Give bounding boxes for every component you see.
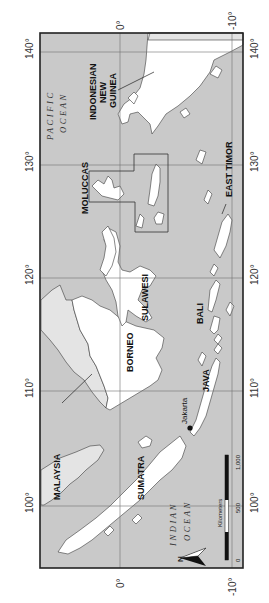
longitude-labels-right: 140° 130° 120° 110° 100°	[249, 38, 260, 513]
tick-140-left: 140°	[24, 38, 35, 59]
label-borneo: BORNEO	[125, 332, 135, 372]
tick-130-left: 130°	[24, 151, 35, 172]
tick-lat-0-top: 0°	[115, 20, 126, 30]
scale-unit: Kilometers	[217, 499, 223, 527]
label-bali: BALI	[195, 303, 205, 324]
tick-120-right: 120°	[249, 264, 260, 285]
label-moluccas: MOLUCCAS	[80, 162, 90, 214]
label-new-guinea-3: GUINEA	[108, 72, 118, 108]
tick-140-right: 140°	[249, 38, 260, 59]
land-papua-new-guinea	[148, 33, 243, 40]
tick-100-right: 100°	[249, 492, 260, 513]
indonesia-map: 140° 130° 120° 110° 100° 140° 130° 120° …	[0, 0, 269, 603]
tick-lat-10-bottom: -10°	[227, 578, 238, 596]
label-new-guinea-2: NEW	[98, 81, 108, 103]
tick-lat-0-bottom: 0°	[115, 578, 126, 588]
label-java: JAVA	[201, 369, 211, 392]
longitude-labels-left: 140° 130° 120° 110° 100°	[24, 38, 35, 513]
label-east-timor: EAST TIMOR	[224, 141, 234, 197]
label-pacific-2: OCEAN	[58, 92, 68, 133]
tick-130-right: 130°	[249, 151, 260, 172]
label-sulawesi: SULAWESI	[140, 274, 150, 321]
label-new-guinea-1: INDONESIAN	[88, 63, 98, 120]
jakarta-marker	[187, 425, 192, 430]
label-malaysia: MALAYSIA	[52, 453, 62, 500]
scale-tick-500: 500	[235, 502, 241, 513]
tick-110-left: 110°	[24, 378, 35, 398]
tick-100-left: 100°	[24, 492, 35, 513]
label-pacific-1: PACIFIC	[45, 90, 55, 141]
label-indian-2: OCEAN	[182, 500, 192, 541]
label-indian-1: INDIAN	[168, 502, 178, 547]
tick-lat-10-top: -10°	[227, 12, 238, 30]
tick-110-right: 110°	[249, 378, 260, 398]
label-jakarta: Jakarta	[180, 397, 189, 424]
tick-120-left: 120°	[24, 264, 35, 285]
scale-tick-1000: 1,000	[235, 454, 241, 470]
label-sumatra: SUMATRA	[136, 455, 146, 500]
